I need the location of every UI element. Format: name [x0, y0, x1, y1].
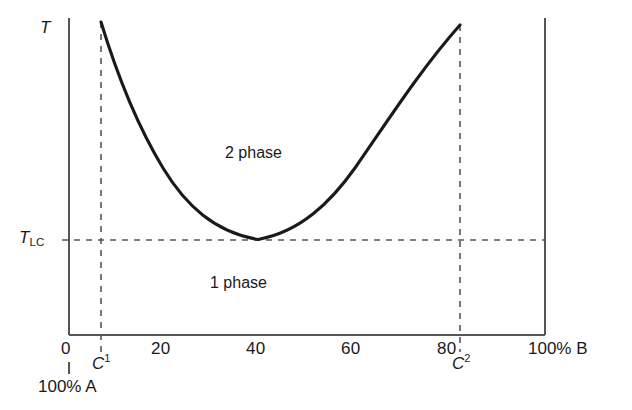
c2-label-sup: 2	[464, 352, 470, 364]
c1-label-main: C	[92, 354, 104, 373]
c2-label: C2	[452, 355, 470, 372]
phase-diagram-figure: T TLC 0 20 40 60 80 100% B 100% A C1 C2 …	[0, 0, 632, 410]
region-label-two-phase: 2 phase	[225, 145, 282, 161]
tlc-tick-label-sub: LC	[29, 236, 44, 248]
region-label-one-phase: 1 phase	[210, 275, 267, 291]
c1-label-sup: 1	[104, 352, 110, 364]
x-origin-sub-label: 100% A	[38, 378, 97, 395]
c2-label-main: C	[452, 354, 464, 373]
y-axis-title: T	[40, 19, 50, 36]
x-tick-20: 20	[151, 340, 170, 357]
x-tick-0: 0	[61, 340, 71, 357]
c1-label: C1	[92, 355, 110, 372]
x-tick-60: 60	[341, 340, 360, 357]
coexistence-curve	[101, 22, 460, 240]
x-tick-40: 40	[246, 340, 265, 357]
tlc-tick-label-main: T	[19, 228, 29, 247]
tlc-tick-label: TLC	[19, 229, 45, 246]
x-end-label: 100% B	[528, 340, 588, 357]
